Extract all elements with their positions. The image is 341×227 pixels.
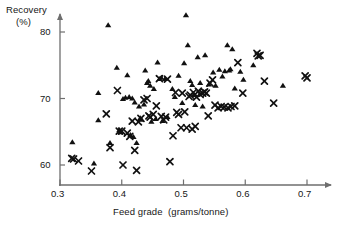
data-point-triangle — [280, 83, 286, 88]
data-point-cross — [172, 90, 178, 96]
data-point-triangle — [142, 67, 148, 72]
data-point-triangle — [91, 161, 97, 166]
y-tick-label-60: 60 — [40, 159, 51, 170]
data-point-cross — [103, 111, 109, 117]
x-tick-label-0.6: 0.6 — [236, 188, 249, 199]
data-point-cross — [170, 133, 176, 139]
data-point-cross — [107, 145, 113, 151]
scatter-chart-figure: Recovery (%) Feed grade (grams/tonne) 0.… — [0, 0, 341, 227]
data-point-cross — [240, 90, 246, 96]
data-point-triangle — [192, 102, 198, 107]
data-point-cross — [167, 159, 173, 165]
data-point-cross — [114, 88, 120, 94]
data-point-triangle — [210, 69, 216, 74]
data-point-triangle — [179, 100, 185, 105]
data-point-triangle — [240, 77, 246, 82]
data-point-cross — [192, 123, 198, 129]
y-tick-label-70: 70 — [40, 93, 51, 104]
data-point-triangle — [216, 67, 222, 72]
data-point-cross — [179, 90, 185, 96]
data-point-triangle — [95, 90, 101, 95]
data-point-triangle — [224, 42, 230, 47]
data-point-cross — [261, 78, 267, 84]
data-point-cross — [132, 147, 138, 153]
data-point-cross — [304, 75, 310, 81]
axes — [59, 14, 331, 186]
data-point-triangle — [133, 140, 139, 145]
series-triangle-markers — [69, 12, 286, 165]
x-tick-label-0.4: 0.4 — [113, 188, 126, 199]
data-point-cross — [134, 167, 140, 173]
data-point-cross — [271, 100, 277, 106]
data-point-triangle — [197, 80, 203, 85]
data-point-triangle — [95, 117, 101, 122]
data-point-cross — [182, 109, 188, 115]
data-point-triangle — [237, 69, 243, 74]
data-point-triangle — [154, 59, 160, 64]
data-point-triangle — [219, 73, 225, 78]
data-point-cross — [205, 113, 211, 119]
data-point-triangle — [187, 78, 193, 83]
y-tick-label-80: 80 — [40, 26, 51, 37]
data-point-cross — [88, 168, 94, 174]
data-point-triangle — [114, 65, 120, 70]
data-point-cross — [120, 162, 126, 168]
axis-ticks — [60, 32, 307, 185]
data-point-triangle — [145, 78, 151, 83]
x-tick-label-0.5: 0.5 — [175, 188, 188, 199]
data-point-triangle — [175, 73, 181, 78]
data-point-cross — [210, 77, 216, 83]
data-point-cross — [153, 103, 159, 109]
data-point-triangle — [124, 72, 130, 77]
data-point-triangle — [185, 42, 191, 47]
data-point-triangle — [232, 85, 238, 90]
data-point-triangle — [250, 62, 256, 67]
data-point-cross — [176, 111, 182, 117]
series-cross-markers — [69, 50, 310, 174]
x-tick-label-0.3: 0.3 — [51, 188, 64, 199]
data-point-cross — [129, 118, 135, 124]
data-point-triangle — [200, 103, 206, 108]
data-point-triangle — [105, 22, 111, 27]
data-point-cross — [235, 60, 241, 66]
data-point-triangle — [183, 12, 189, 17]
data-point-triangle — [69, 139, 75, 144]
data-point-triangle — [227, 66, 233, 71]
data-point-triangle — [195, 54, 201, 59]
data-point-triangle — [202, 52, 208, 57]
data-point-triangle — [181, 60, 187, 65]
data-point-triangle — [107, 140, 113, 145]
data-point-cross — [178, 125, 184, 131]
x-tick-label-0.7: 0.7 — [298, 188, 311, 199]
